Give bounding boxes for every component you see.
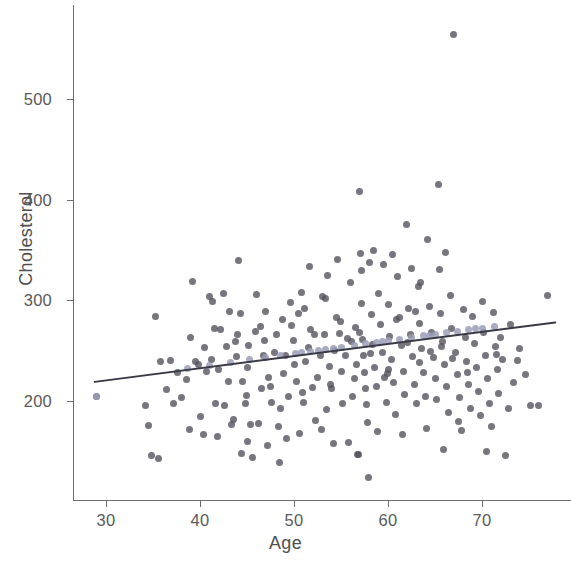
y-tick-mark [67, 401, 73, 402]
x-tick-mark [388, 501, 389, 507]
y-tick-mark [67, 300, 73, 301]
y-tick-label-wrap: 200 [0, 391, 62, 411]
y-tick-label: 200 [0, 391, 52, 411]
x-tick-mark [294, 501, 295, 507]
x-tick-label: 50 [274, 511, 314, 530]
x-tick-mark [482, 501, 483, 507]
y-tick-label-wrap: 500 [0, 89, 62, 109]
x-tick-label: 70 [462, 511, 502, 530]
y-tick-mark [67, 200, 73, 201]
y-tick-label: 500 [0, 89, 52, 109]
x-tick-mark [106, 501, 107, 507]
x-tick-label: 60 [368, 511, 408, 530]
y-tick-mark [67, 99, 73, 100]
x-tick-label: 30 [86, 511, 126, 530]
scatter-plot-figure: 200300400500 3040506070 Age Cholesterol [0, 0, 571, 561]
x-axis-title: Age [0, 533, 571, 554]
x-tick-mark [200, 501, 201, 507]
regression-line [0, 0, 571, 561]
x-tick-label: 40 [180, 511, 220, 530]
y-axis-title: Cholesterol [16, 149, 37, 329]
